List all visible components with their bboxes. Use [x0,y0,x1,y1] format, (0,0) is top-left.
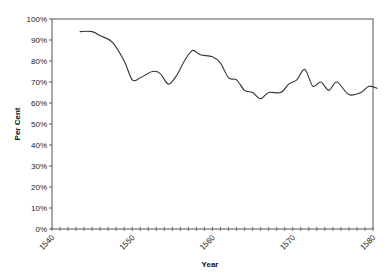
y-tick-label: 40% [31,141,47,150]
x-axis-title: Year [202,260,219,269]
y-tick-label: 70% [31,78,47,87]
y-axis-title: Per Cent [13,107,22,140]
y-tick-label: 20% [31,183,47,192]
y-tick-label: 80% [31,57,47,66]
y-tick-label: 60% [31,99,47,108]
y-tick-label: 0% [35,225,47,234]
y-tick-label: 100% [27,15,47,24]
y-tick-label: 10% [31,204,47,213]
y-tick-label: 50% [31,120,47,129]
y-tick-label: 90% [31,36,47,45]
plot-area [52,19,373,229]
y-tick-label: 30% [31,162,47,171]
line-chart: 0%10%20%30%40%50%60%70%80%90%100% 154015… [0,0,389,280]
